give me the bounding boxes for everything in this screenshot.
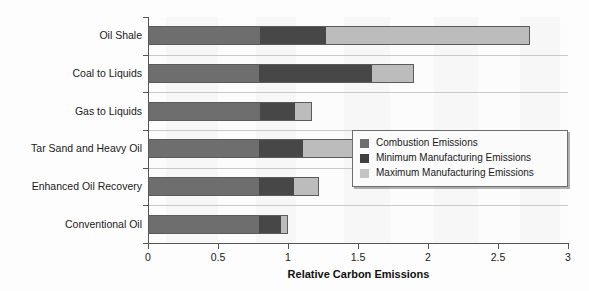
legend-swatch-maximum-manufacturing	[360, 169, 369, 178]
bar-segment	[259, 139, 303, 158]
x-axis-tick	[568, 243, 569, 249]
y-axis-tick	[143, 205, 149, 206]
legend-label: Minimum Manufacturing Emissions	[376, 153, 531, 163]
x-axis-tick	[428, 243, 429, 249]
bar-segment	[259, 64, 372, 83]
bar-segment	[295, 102, 312, 121]
legend-item: Minimum Manufacturing Emissions	[360, 151, 561, 165]
x-axis-tick	[358, 243, 359, 249]
legend-item: Maximum Manufacturing Emissions	[360, 166, 561, 180]
category-label: Enhanced Oil Recovery	[0, 180, 142, 192]
x-axis-tick-label: 2.5	[491, 251, 506, 263]
legend-label: Maximum Manufacturing Emissions	[376, 168, 534, 178]
y-axis-tick	[143, 130, 149, 131]
x-axis-tick-label: 1	[285, 251, 291, 263]
bar-segment	[303, 139, 355, 158]
category-label: Oil Shale	[0, 29, 142, 41]
x-axis-tick-label: 2	[425, 251, 431, 263]
category-label: Tar Sand and Heavy Oil	[0, 142, 142, 154]
bar-segment	[148, 64, 259, 83]
x-axis-tick	[288, 243, 289, 249]
gridline	[148, 92, 568, 93]
x-axis-tick-label: 0	[145, 251, 151, 263]
legend: Combustion Emissions Minimum Manufacturi…	[352, 130, 568, 187]
bar-segment	[294, 177, 319, 196]
x-axis-tick-label: 1.5	[351, 251, 366, 263]
bar-segment	[260, 26, 326, 45]
bar-segment	[259, 177, 294, 196]
x-axis-tick	[218, 243, 219, 249]
bar-segment	[148, 139, 259, 158]
bar-segment	[260, 102, 295, 121]
category-label: Coal to Liquids	[0, 67, 142, 79]
y-axis-tick	[143, 55, 149, 56]
bar-segment	[372, 64, 414, 83]
bar-segment	[259, 215, 281, 234]
y-axis-tick	[143, 92, 149, 93]
bar-segment	[148, 26, 260, 45]
legend-label: Combustion Emissions	[376, 138, 478, 148]
gridline	[148, 55, 568, 56]
y-axis-tick	[143, 168, 149, 169]
category-label: Conventional Oil	[0, 218, 142, 230]
legend-swatch-minimum-manufacturing	[360, 154, 369, 163]
bar-segment	[326, 26, 530, 45]
x-axis-tick-label: 0.5	[211, 251, 226, 263]
legend-swatch-combustion	[360, 139, 369, 148]
bar-segment	[281, 215, 288, 234]
legend-item: Combustion Emissions	[360, 136, 561, 150]
y-axis-tick	[143, 17, 149, 18]
bar-segment	[148, 102, 260, 121]
x-axis-title: Relative Carbon Emissions	[148, 268, 569, 280]
bar-segment	[148, 177, 259, 196]
carbon-emissions-chart: Oil ShaleCoal to LiquidsGas to LiquidsTa…	[0, 0, 589, 291]
x-axis-tick-label: 3	[565, 251, 571, 263]
x-axis-tick	[148, 243, 149, 249]
category-label: Gas to Liquids	[0, 105, 142, 117]
gridline	[148, 205, 568, 206]
x-axis-tick	[498, 243, 499, 249]
bar-segment	[148, 215, 259, 234]
